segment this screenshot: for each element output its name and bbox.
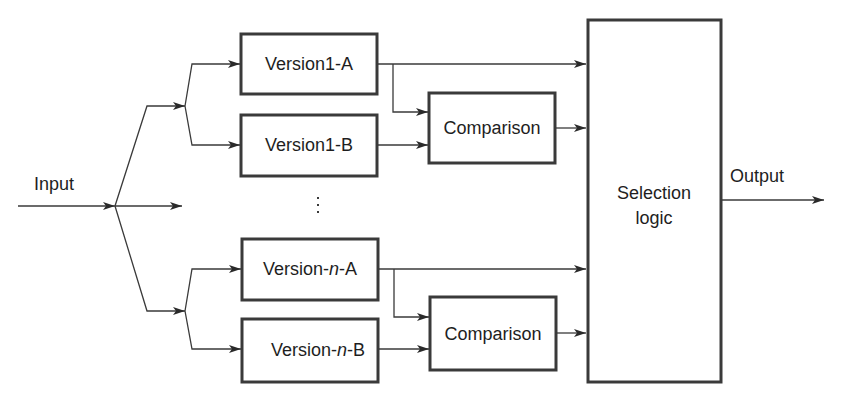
block-selection-logic: Selection logic [588,20,721,382]
arrow-to-vna [185,269,241,311]
version-n-b-label: Version-n-B [271,340,365,360]
v1a-to-comparison-arrow [393,64,428,112]
output-label: Output [730,166,784,186]
vna-to-comparison-arrow [394,269,429,317]
selection-logic-label-line1: Selection [617,183,691,203]
comparison-1-label: Comparison [443,118,540,138]
block-version-n-b: Version-n-B [242,319,378,382]
block-comparison-2: Comparison [430,297,556,370]
arrow-to-v1a [185,64,240,106]
vertical-ellipsis-icon [317,197,319,213]
block-comparison-1: Comparison [429,93,555,163]
comparison-2-label: Comparison [444,324,541,344]
lower-branch-arrow [115,206,185,311]
input-label: Input [34,174,74,194]
n-version-diagram: Input Version1-A Version1-B Version-n-A … [0,0,844,407]
version1-b-label: Version1-B [265,135,353,155]
selection-logic-label-line2: logic [635,208,672,228]
arrow-to-v1b [185,106,240,145]
block-version1-a: Version1-A [241,34,377,94]
arrow-to-vnb [185,311,241,349]
block-version-n-a: Version-n-A [242,239,378,300]
version-n-a-label: Version-n-A [263,259,357,279]
version1-a-label: Version1-A [265,54,353,74]
upper-branch-arrow [115,106,185,206]
block-version1-b: Version1-B [241,115,377,176]
